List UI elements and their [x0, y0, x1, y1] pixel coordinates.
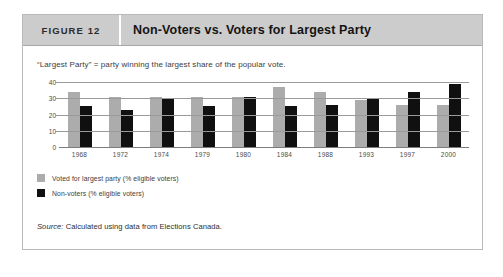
- figure-body: “Largest Party” = party winning the larg…: [23, 46, 482, 250]
- bar-voted-largest-party: [273, 87, 285, 147]
- x-axis-tick-label: 1988: [305, 151, 346, 158]
- source-prefix: Source:: [37, 222, 64, 231]
- bar-voted-largest-party: [191, 97, 203, 147]
- x-axis-labels: 1968197219741979198019841988199319972000: [59, 151, 469, 158]
- legend-swatch-gray: [37, 174, 45, 182]
- bar-non-voters: [244, 97, 256, 147]
- figure-subtitle: “Largest Party” = party winning the larg…: [37, 60, 286, 69]
- legend-swatch-black: [37, 189, 45, 197]
- gridline: [59, 115, 469, 116]
- figure-title: Non-Voters vs. Voters for Largest Party: [121, 15, 482, 45]
- x-axis-tick-label: 1979: [182, 151, 223, 158]
- bar-chart-plot: 403020100 196819721974197919801984198819…: [37, 82, 469, 164]
- figure-header: FIGURE 12 Non-Voters vs. Voters for Larg…: [23, 15, 482, 46]
- chart-legend: Voted for largest party (% eligible vote…: [37, 174, 179, 204]
- x-axis-tick-label: 1984: [264, 151, 305, 158]
- plot-grid-area: [59, 82, 469, 148]
- x-axis-tick-label: 1997: [387, 151, 428, 158]
- x-axis-baseline: [59, 147, 469, 148]
- y-axis-tick-label: 0: [52, 144, 56, 151]
- gridline: [59, 98, 469, 99]
- y-axis-tickmark: [55, 98, 59, 99]
- figure-number-tag: FIGURE 12: [23, 15, 121, 45]
- source-text: Calculated using data from Elections Can…: [64, 222, 222, 231]
- legend-label-voted: Voted for largest party (% eligible vote…: [52, 175, 179, 182]
- bar-non-voters: [162, 98, 174, 147]
- legend-item-voted: Voted for largest party (% eligible vote…: [37, 174, 179, 182]
- y-axis-tickmark: [55, 131, 59, 132]
- bar-non-voters: [326, 105, 338, 147]
- bar-voted-largest-party: [150, 97, 162, 147]
- bar-non-voters: [408, 92, 420, 147]
- bar-non-voters: [203, 106, 215, 147]
- bar-voted-largest-party: [437, 105, 449, 147]
- gridline: [59, 82, 469, 83]
- legend-item-nonvoters: Non-voters (% eligible voters): [37, 189, 179, 197]
- bar-voted-largest-party: [396, 105, 408, 147]
- bar-non-voters: [285, 106, 297, 147]
- legend-label-nonvoters: Non-voters (% eligible voters): [52, 190, 144, 197]
- bar-non-voters: [80, 106, 92, 147]
- bar-voted-largest-party: [68, 92, 80, 147]
- figure-source: Source: Calculated using data from Elect…: [37, 222, 222, 231]
- x-axis-tick-label: 1974: [141, 151, 182, 158]
- bar-voted-largest-party: [109, 97, 121, 147]
- y-axis-tickmark: [55, 115, 59, 116]
- bar-voted-largest-party: [314, 92, 326, 147]
- x-axis-tick-label: 2000: [428, 151, 469, 158]
- figure-card: FIGURE 12 Non-Voters vs. Voters for Larg…: [22, 14, 483, 250]
- x-axis-tick-label: 1980: [223, 151, 264, 158]
- gridline: [59, 131, 469, 132]
- bar-voted-largest-party: [355, 100, 367, 147]
- y-axis-tickmark: [55, 82, 59, 83]
- x-axis-tick-label: 1968: [59, 151, 100, 158]
- bar-voted-largest-party: [232, 97, 244, 147]
- bar-non-voters: [367, 98, 379, 147]
- x-axis-tick-label: 1993: [346, 151, 387, 158]
- x-axis-tick-label: 1972: [100, 151, 141, 158]
